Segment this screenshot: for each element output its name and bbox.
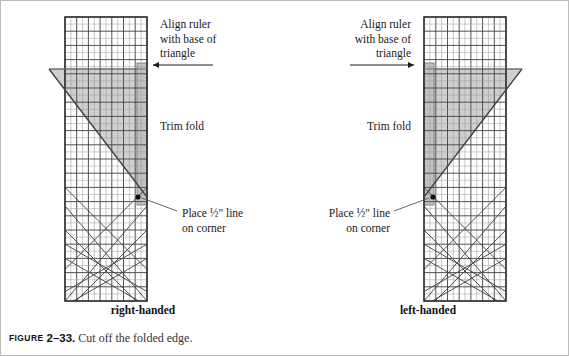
caption-number: 2–33. [47,332,76,344]
fold-strip [424,63,434,205]
panel-left-handed: Align ruler with base of triangle Trim f… [286,1,569,321]
caption-text: Cut off the folded edge. [78,331,192,345]
figure-caption: Figure 2–33. Cut off the folded edge. [9,331,192,346]
callout-align-ruler: Align ruler with base of triangle [286,17,411,61]
callout-place-half-inch-line: Place ½" line on corner [286,206,390,235]
caption-label: Figure [9,333,44,343]
callout-align-ruler: Align ruler with base of triangle [160,17,216,61]
callout-trim-fold: Trim fold [160,119,204,134]
figure-frame: Align ruler with base of triangle Trim f… [0,0,569,356]
callout-trim-fold: Trim fold [286,119,411,134]
callout-place-half-inch-line: Place ½" line on corner [182,206,243,235]
diagram-right-handed [1,1,285,321]
fold-strip [137,63,147,205]
label-right-handed: right-handed [1,304,285,316]
panel-right-handed: Align ruler with base of triangle Trim f… [1,1,285,321]
label-left-handed: left-handed [286,304,569,316]
